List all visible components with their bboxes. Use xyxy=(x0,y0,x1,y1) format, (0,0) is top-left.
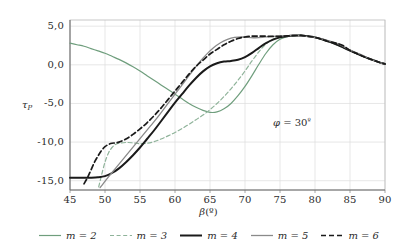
legend-label: m = 4 xyxy=(207,230,238,241)
y-axis-title-subscript: P xyxy=(28,104,33,112)
chart-legend: m = 2m = 3m = 4m = 5m = 6 xyxy=(0,230,417,241)
x-tick-label: 85 xyxy=(335,194,365,205)
legend-swatch xyxy=(109,231,133,240)
x-tick-label: 50 xyxy=(90,194,120,205)
y-axis-title: τP xyxy=(22,99,32,112)
y-tick-label: -15,0 xyxy=(24,175,64,186)
legend-label: m = 2 xyxy=(66,230,97,241)
x-axis-title: β(º) xyxy=(0,206,417,217)
x-axis-title-unit: (º) xyxy=(205,206,218,217)
x-tick-label: 65 xyxy=(195,194,225,205)
x-tick-label: 45 xyxy=(55,194,85,205)
degree-sign: º xyxy=(307,117,310,125)
x-tick-label: 90 xyxy=(370,194,400,205)
legend-item-m-4[interactable]: m = 4 xyxy=(179,230,238,241)
x-tick-label: 80 xyxy=(300,194,330,205)
legend-swatch xyxy=(320,231,344,240)
phi-symbol: φ xyxy=(273,117,280,128)
y-tick-label: 0,0 xyxy=(24,59,64,70)
legend-label: m = 3 xyxy=(137,230,168,241)
phi-value: = 30 xyxy=(280,117,307,128)
legend-item-m-3[interactable]: m = 3 xyxy=(109,230,168,241)
series-line-m-6 xyxy=(84,35,385,183)
x-tick-label: 55 xyxy=(125,194,155,205)
y-tick-label: 5,0 xyxy=(24,20,64,31)
legend-label: m = 6 xyxy=(348,230,379,241)
legend-item-m-2[interactable]: m = 2 xyxy=(38,230,97,241)
legend-item-m-5[interactable]: m = 5 xyxy=(250,230,309,241)
x-tick-label: 70 xyxy=(230,194,260,205)
x-tick-label: 60 xyxy=(160,194,190,205)
legend-swatch xyxy=(250,231,274,240)
x-tick-label: 75 xyxy=(265,194,295,205)
data-series xyxy=(70,35,385,187)
legend-swatch xyxy=(179,231,203,240)
chart-figure: 5,00,0-5,0-10,0-15,0 4550556065707580859… xyxy=(0,0,417,250)
legend-label: m = 5 xyxy=(278,230,309,241)
y-tick-label: -10,0 xyxy=(24,136,64,147)
legend-swatch xyxy=(38,231,62,240)
series-line-m-2 xyxy=(70,35,385,112)
phi-annotation: φ = 30º xyxy=(273,117,311,128)
legend-item-m-6[interactable]: m = 6 xyxy=(320,230,379,241)
